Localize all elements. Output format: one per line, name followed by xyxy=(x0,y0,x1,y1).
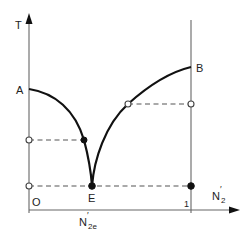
filled-marker-right-axis-eutectic xyxy=(188,183,195,190)
eutectic-comp-main: N xyxy=(79,216,87,228)
x-axis xyxy=(29,207,240,214)
x-axis-label-main: N xyxy=(212,190,220,202)
y-axis-arrow-icon xyxy=(26,13,33,24)
y-axis-label: T xyxy=(15,19,22,31)
x-axis-label-sub: 2 xyxy=(221,196,226,205)
origin-label: O xyxy=(32,196,41,208)
x-axis-label: N ′ 2 xyxy=(212,184,226,205)
open-marker-right-axis-upper xyxy=(188,101,194,107)
eutectic-composition-label: N ′ 2e xyxy=(79,210,97,231)
open-marker-right-upper-curve xyxy=(125,101,131,107)
eutectic-comp-prime: ′ xyxy=(87,210,89,220)
eutectic-comp-sub: 2e xyxy=(88,222,97,231)
x-axis-arrow-icon xyxy=(229,207,240,214)
phase-diagram: T A B E O 1 N ′ 2 N ′ 2e xyxy=(0,0,250,237)
liquidus-curve-right xyxy=(92,67,191,186)
x-end-label: 1 xyxy=(184,199,189,209)
filled-marker-left-curve xyxy=(81,137,87,143)
open-marker-left-axis-eutectic xyxy=(26,183,32,189)
point-label-a: A xyxy=(16,84,24,96)
x-axis-label-prime: ′ xyxy=(220,184,222,194)
open-marker-left-axis-middle xyxy=(26,137,32,143)
eutectic-point-marker xyxy=(89,183,96,190)
point-label-b: B xyxy=(196,62,203,74)
point-label-e: E xyxy=(88,192,95,204)
